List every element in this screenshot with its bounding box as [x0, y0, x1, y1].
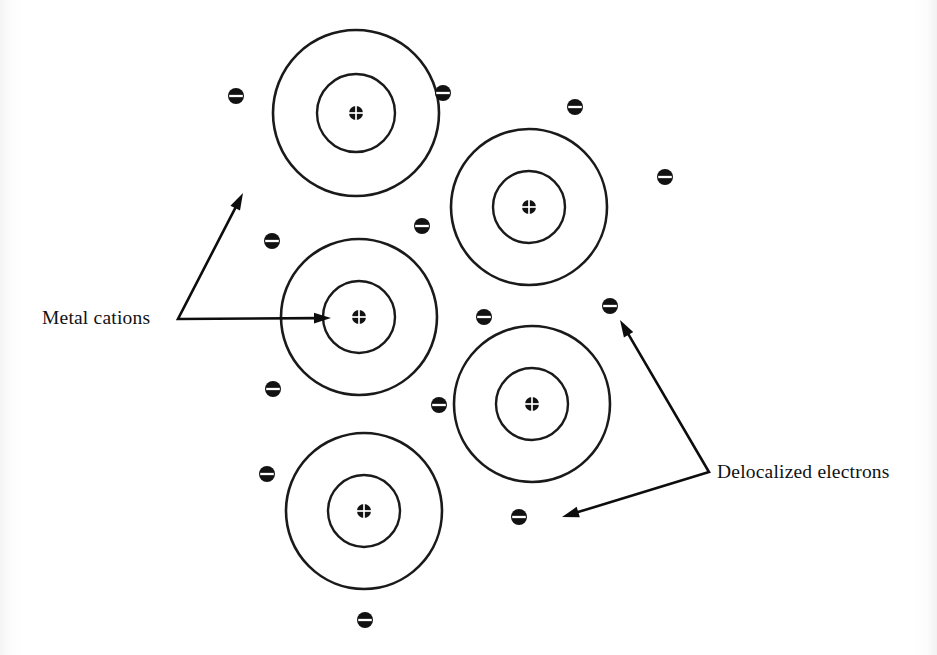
circled-plus-icon — [525, 397, 539, 411]
circled-minus-icon — [228, 88, 244, 104]
delocalized-electrons-leader — [562, 320, 709, 517]
circled-minus-icon — [657, 169, 673, 185]
circled-minus-icon — [602, 298, 618, 314]
metal-cations-label: Metal cations — [42, 308, 150, 328]
circled-plus-icon — [352, 310, 366, 324]
circled-minus-icon — [476, 309, 492, 325]
circled-plus-icon — [522, 200, 536, 214]
delocalized-electrons-arrow-lower — [562, 507, 580, 517]
circled-minus-icon — [431, 397, 447, 413]
leader-layer — [178, 193, 709, 517]
circled-minus-icon — [414, 218, 430, 234]
circled-minus-icon — [259, 466, 275, 482]
metal-cation — [454, 326, 610, 482]
circled-minus-icon — [511, 509, 527, 525]
metal-cation — [451, 129, 607, 285]
metal-cation — [286, 433, 442, 589]
delocalized-electrons-arrow-upper — [620, 320, 633, 337]
metal-cation — [273, 30, 439, 196]
metal-cations-leader-path — [178, 206, 316, 319]
circled-plus-icon — [357, 504, 371, 518]
circled-minus-icon — [567, 99, 583, 115]
circled-minus-icon — [357, 612, 373, 628]
diagram-canvas: Metal cations Delocalized electrons — [0, 0, 937, 655]
circled-minus-icon — [264, 233, 280, 249]
delocalized-electrons-label: Delocalized electrons — [717, 462, 890, 482]
circled-minus-icon — [435, 85, 451, 101]
metal-cations-arrow-upper — [230, 193, 243, 211]
circled-minus-icon — [265, 381, 281, 397]
circled-plus-icon — [349, 106, 363, 120]
cation-layer — [273, 30, 610, 589]
